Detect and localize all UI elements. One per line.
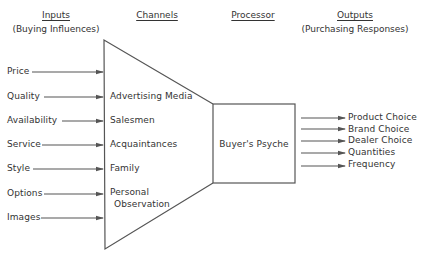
output-label-dealer-choice: Dealer Choice: [348, 135, 412, 146]
header-channels-title: Channels: [136, 10, 178, 21]
header-processor: Processor: [231, 10, 274, 21]
output-label-quantities: Quantities: [348, 147, 395, 158]
channel-label-family: Family: [110, 163, 140, 174]
channel-label-salesmen: Salesmen: [110, 115, 155, 126]
channel-label-personal: Personal: [110, 187, 149, 198]
header-inputs-title: Inputs: [12, 10, 99, 21]
input-arrows: [32, 72, 103, 218]
header-outputs-subtitle: (Purchasing Responses): [301, 24, 408, 35]
output-arrows: [301, 118, 345, 166]
header-inputs-subtitle: (Buying Influences): [12, 24, 99, 35]
header-outputs-title: Outputs: [301, 10, 408, 21]
input-label-style: Style: [7, 163, 30, 174]
processor-label: Buyer's Psyche: [219, 139, 288, 150]
header-inputs: Inputs (Buying Influences): [12, 10, 99, 35]
header-channels: Channels: [136, 10, 178, 21]
input-label-price: Price: [7, 66, 29, 77]
channel-label-observation: Observation: [114, 199, 170, 210]
input-label-service: Service: [7, 139, 41, 150]
channel-label-acquaintances: Acquaintances: [110, 139, 177, 150]
header-processor-title: Processor: [231, 10, 274, 21]
input-label-quality: Quality: [7, 91, 40, 102]
output-label-product-choice: Product Choice: [348, 112, 417, 123]
output-label-frequency: Frequency: [348, 159, 395, 170]
header-outputs: Outputs (Purchasing Responses): [301, 10, 408, 35]
output-label-brand-choice: Brand Choice: [348, 124, 409, 135]
input-label-images: Images: [7, 212, 40, 223]
input-label-availability: Availability: [7, 115, 57, 126]
input-label-options: Options: [7, 188, 42, 199]
channel-label-advertising-media: Advertising Media: [110, 91, 193, 102]
